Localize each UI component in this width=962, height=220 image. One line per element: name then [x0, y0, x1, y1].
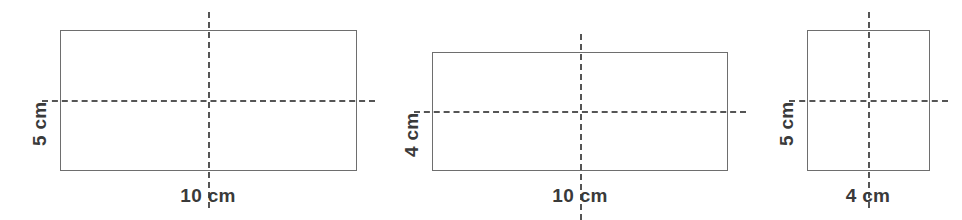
figure-board: 10 cm5 cm10 cm4 cm4 cm5 cm: [0, 0, 962, 220]
horizontal-centre-dashed-line-3: [789, 100, 948, 102]
height-label-3: 5 cm: [777, 101, 796, 146]
vertical-centre-dashed-line-3: [868, 12, 870, 208]
width-label-3: 4 cm: [846, 186, 891, 205]
rectangle-figure-3: 4 cm5 cm: [0, 0, 962, 220]
